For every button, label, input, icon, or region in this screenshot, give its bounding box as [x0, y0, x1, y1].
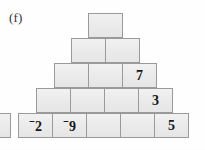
cell-r3-c2[interactable] [88, 63, 123, 88]
cell-r2-c2[interactable] [105, 38, 140, 63]
pyramid-row-3: 7 [54, 63, 157, 88]
cell-r5-c1[interactable]: ⁻2 [18, 113, 53, 138]
cell-r4-c4-value: 3 [152, 94, 159, 108]
pyramid-row-1 [88, 13, 123, 38]
cell-r5-c2-number: 9 [69, 118, 76, 133]
cell-r5-c2[interactable]: ⁻9 [52, 113, 87, 138]
cell-r4-c3[interactable] [104, 88, 139, 113]
cell-r3-c3-value: 7 [136, 69, 143, 83]
figure-root: (f) 73⁻2⁻95 [0, 0, 205, 150]
cell-r5-c4[interactable] [120, 113, 155, 138]
cell-r5-c5[interactable]: 5 [154, 113, 189, 138]
cell-r5-c3[interactable] [86, 113, 121, 138]
cell-r5-c1-value: ⁻2 [29, 118, 42, 134]
cell-r4-c4[interactable]: 3 [138, 88, 173, 113]
cell-r4-c2[interactable] [70, 88, 105, 113]
bottom-edge-spacer [0, 146, 205, 150]
cell-r5-c1-number: 2 [35, 118, 42, 133]
cell-r5-c2-negative-sign: ⁻ [63, 117, 69, 129]
number-pyramid: 73⁻2⁻95 [0, 0, 205, 150]
pyramid-row-4: 3 [36, 88, 173, 113]
cell-r5-c2-value: ⁻9 [63, 118, 76, 134]
cell-r3-c1[interactable] [54, 63, 89, 88]
cell-r4-c1[interactable] [36, 88, 71, 113]
cell-r5-c5-value: 5 [168, 119, 175, 133]
cell-r3-c3[interactable]: 7 [122, 63, 157, 88]
cell-r1-c1[interactable] [88, 13, 123, 38]
cell-r5-c1-negative-sign: ⁻ [29, 117, 35, 129]
cell-r2-c1[interactable] [71, 38, 106, 63]
pyramid-row-5: ⁻2⁻95 [18, 113, 189, 138]
pyramid-row-2 [71, 38, 140, 63]
